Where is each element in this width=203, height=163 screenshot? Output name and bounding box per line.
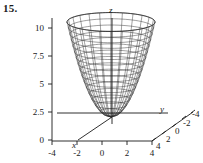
bottom-tick-label: -4 <box>48 148 56 158</box>
z-axis-label: z <box>108 5 113 15</box>
z-tick-label: 7.5 <box>33 51 45 61</box>
z-tick-label: 0 <box>40 135 45 145</box>
bottom-tick-label: -2 <box>73 148 81 158</box>
depth-tick-label: 4 <box>156 141 161 151</box>
bottom-tick-label: 2 <box>125 148 130 158</box>
paraboloid-plot: z y x 10 7.5 5 2.5 0 -4 -2 0 2 4 4 2 0 -… <box>0 0 203 163</box>
x-axis-guide <box>78 117 112 140</box>
depth-tick-labels: 4 2 0 -2 -4 <box>156 109 200 151</box>
bottom-tick-label: 0 <box>100 148 105 158</box>
z-tick-label: 10 <box>35 23 45 33</box>
z-tick-label: 5 <box>40 79 45 89</box>
depth-tick-label: 2 <box>166 134 171 144</box>
z-tick-marks <box>48 28 52 140</box>
bottom-tick-label: 4 <box>150 148 155 158</box>
z-tick-labels: 10 7.5 5 2.5 0 <box>33 23 45 145</box>
depth-tick-label: -4 <box>192 109 200 119</box>
bottom-tick-marks <box>52 141 152 145</box>
figure-panel: 15. <box>0 0 203 163</box>
depth-tick-label: -2 <box>183 118 191 128</box>
paraboloid-mesh <box>67 13 155 117</box>
axis-frame <box>52 18 193 141</box>
bottom-tick-labels: -4 -2 0 2 4 <box>48 148 155 158</box>
y-axis-label: y <box>159 104 164 114</box>
z-tick-label: 2.5 <box>33 107 45 117</box>
depth-tick-label: 0 <box>175 126 180 136</box>
